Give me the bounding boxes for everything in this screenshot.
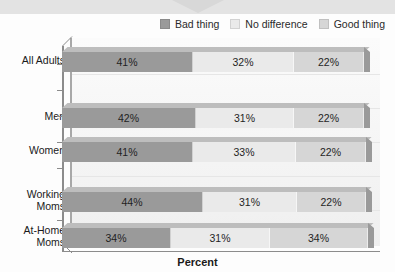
legend-swatch-bad-thing <box>160 19 170 29</box>
bar-value-bad-at-home-moms: 34% <box>105 232 126 244</box>
bar-value-nodiff-men: 31% <box>234 112 255 124</box>
bar-at-home-moms[interactable]: 34% 31% 34% <box>62 228 368 248</box>
ribbon-notch <box>172 0 224 13</box>
wall-line <box>70 74 380 75</box>
bar-segment-nodiff-all-adults[interactable]: 32% <box>193 52 294 72</box>
category-label-men: Men <box>5 110 65 122</box>
bar-segment-nodiff-working-moms[interactable]: 31% <box>203 192 297 212</box>
bar-segment-good-all-adults[interactable]: 22% <box>294 52 364 72</box>
bar-value-nodiff-all-adults: 32% <box>232 56 253 68</box>
bar-segment-good-women[interactable]: 22% <box>296 142 366 162</box>
legend-label-no-difference: No difference <box>245 19 307 30</box>
legend-item-good-thing: Good thing <box>319 19 385 30</box>
axis-tick <box>57 220 63 221</box>
bar-segment-good-working-moms[interactable]: 22% <box>297 192 366 212</box>
bar-segment-good-at-home-moms[interactable]: 34% <box>270 228 368 248</box>
bar-women[interactable]: 41% 33% 22% <box>62 142 366 162</box>
category-label-all-adults-line1: All Adults <box>5 54 65 66</box>
category-label-all-adults: All Adults <box>5 54 65 66</box>
category-label-at-home-moms-line2: Moms <box>5 236 65 248</box>
bar-value-nodiff-women: 33% <box>233 146 254 158</box>
category-label-at-home-moms-line1: At-Home <box>5 224 65 236</box>
bar-segment-bad-men[interactable]: 42% <box>62 108 196 128</box>
bar-value-good-all-adults: 22% <box>318 56 339 68</box>
bar-segment-nodiff-at-home-moms[interactable]: 31% <box>171 228 270 248</box>
category-label-at-home-moms: At-Home Moms <box>5 224 65 248</box>
bar-men[interactable]: 42% 31% 22% <box>62 108 364 128</box>
bar-segment-nodiff-men[interactable]: 31% <box>196 108 294 128</box>
category-label-men-line1: Men <box>5 110 65 122</box>
bar-segment-bad-at-home-moms[interactable]: 34% <box>62 228 171 248</box>
legend-label-bad-thing: Bad thing <box>175 19 219 30</box>
bar-value-good-at-home-moms: 34% <box>308 232 329 244</box>
bar-segment-bad-all-adults[interactable]: 41% <box>62 52 193 72</box>
legend-label-good-thing: Good thing <box>334 19 385 30</box>
category-label-women-line1: Women <box>5 144 65 156</box>
wall-line <box>70 176 380 177</box>
bar-value-good-working-moms: 22% <box>320 196 341 208</box>
bar-value-nodiff-working-moms: 31% <box>239 196 260 208</box>
legend-item-no-difference: No difference <box>230 19 307 30</box>
bar-all-adults[interactable]: 41% 32% 22% <box>62 52 364 72</box>
x-axis-title: Percent <box>0 256 395 268</box>
chart-legend: Bad thing No difference Good thing <box>0 16 395 32</box>
bar-value-good-women: 22% <box>320 146 341 158</box>
bar-working-moms[interactable]: 44% 31% 22% <box>62 192 366 212</box>
legend-swatch-good-thing <box>319 19 329 29</box>
category-label-working-moms: Working Moms <box>5 188 65 212</box>
bar-value-good-men: 22% <box>318 112 339 124</box>
bar-segment-good-men[interactable]: 22% <box>294 108 364 128</box>
category-label-working-moms-line1: Working <box>5 188 65 200</box>
category-label-women: Women <box>5 144 65 156</box>
bar-value-bad-working-moms: 44% <box>121 196 142 208</box>
bar-value-bad-all-adults: 41% <box>116 56 137 68</box>
plot-area: 41% 32% 22% 42% 31% 22% <box>62 38 380 253</box>
bar-value-bad-women: 41% <box>116 146 137 158</box>
bar-segment-bad-working-moms[interactable]: 44% <box>62 192 203 212</box>
bar-segment-nodiff-women[interactable]: 33% <box>193 142 296 162</box>
legend-swatch-no-difference <box>230 19 240 29</box>
plot-baseline <box>62 251 380 252</box>
top-ribbon-band <box>0 0 395 14</box>
category-axis-top-diagonal <box>62 36 73 46</box>
axis-tick <box>57 90 63 91</box>
category-label-working-moms-line2: Moms <box>5 200 65 212</box>
chart-container: Bad thing No difference Good thing All A… <box>0 0 395 272</box>
axis-tick <box>57 168 63 169</box>
bar-value-nodiff-at-home-moms: 31% <box>209 232 230 244</box>
bar-segment-bad-women[interactable]: 41% <box>62 142 193 162</box>
bar-value-bad-men: 42% <box>118 112 139 124</box>
legend-item-bad-thing: Bad thing <box>160 19 219 30</box>
